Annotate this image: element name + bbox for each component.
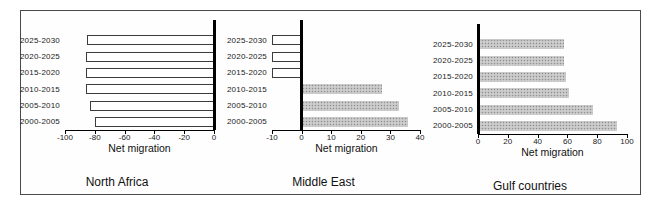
category-label: 2010-2015 [227,81,272,97]
x-axis-tick-label: 40 [416,133,425,142]
category-label: 2010-2015 [433,85,478,101]
category-axis-labels: 2025-20302020-20252015-20202010-20152005… [227,32,272,130]
chart-title: Middle East [227,175,420,189]
category-label: 2010-2015 [20,81,65,97]
bar [478,88,569,98]
x-axis-tick-label: -80 [89,133,101,142]
x-axis-tick-label: 10 [327,133,336,142]
chart-title: North Africa [20,175,214,189]
category-label: 2025-2030 [20,32,65,48]
x-axis-tick-label: 40 [533,137,542,146]
x-axis-tick-label: 100 [620,137,633,146]
plot-area: -100-80-60-40-200 [65,32,214,131]
bar [478,105,593,115]
x-axis-tick-label: -20 [178,133,190,142]
category-label: 2000-2005 [433,118,478,134]
zero-axis-line [477,24,480,134]
category-label: 2005-2010 [20,97,65,113]
category-label: 2015-2020 [20,65,65,81]
chart-gulf-countries: 2025-20302020-20252015-20202010-20152005… [433,0,627,207]
category-label: 2000-2005 [227,114,272,130]
bar [272,68,302,78]
bar [90,101,214,111]
category-label: 2005-2010 [433,101,478,117]
bar [86,84,214,94]
x-axis-tick-label: -100 [57,133,73,142]
category-label: 2015-2020 [227,65,272,81]
category-axis-labels: 2025-20302020-20252015-20202010-20152005… [20,32,65,130]
bar [95,117,214,127]
category-label: 2020-2025 [433,52,478,68]
bar [302,117,409,127]
category-label: 2000-2005 [20,114,65,130]
x-axis-tick-label: 20 [356,133,365,142]
x-axis-tick-label: 0 [212,133,216,142]
x-axis-tick-label: -60 [119,133,131,142]
bar [272,35,302,45]
x-axis-tick-label: 0 [299,133,303,142]
category-label: 2025-2030 [227,32,272,48]
category-axis-labels: 2025-20302020-20252015-20202010-20152005… [433,36,478,134]
category-label: 2025-2030 [433,36,478,52]
category-label: 2005-2010 [227,97,272,113]
category-label: 2020-2025 [20,48,65,64]
zero-axis-line [213,20,216,130]
x-axis-title: Net migration [65,142,214,154]
bar [86,68,214,78]
bar [302,101,400,111]
bar [272,52,302,62]
zero-axis-line [300,20,303,130]
x-axis-tick-label: -10 [266,133,278,142]
x-axis-tick-label: 20 [503,137,512,146]
chart-north-africa: 2025-20302020-20252015-20202010-20152005… [20,0,214,207]
bar [87,35,214,45]
bar [478,39,564,49]
bar [86,52,214,62]
x-axis-tick-label: -40 [149,133,161,142]
bar [478,121,617,131]
chart-title: Gulf countries [433,179,627,193]
x-axis-tick-label: 80 [593,137,602,146]
bar [478,72,566,82]
x-axis-tick-label: 0 [476,137,480,146]
bar [478,56,564,66]
chart-middle-east: 2025-20302020-20252015-20202010-20152005… [227,0,420,207]
category-label: 2020-2025 [227,48,272,64]
plot-area: 020406080100 [478,36,627,135]
x-axis-title: Net migration [478,146,627,158]
x-axis-tick-label: 30 [386,133,395,142]
bar [302,84,382,94]
plot-area: -10010203040 [272,32,420,131]
x-axis-title: Net migration [272,142,421,154]
figure-net-migration: 2025-20302020-20252015-20202010-20152005… [0,0,655,207]
x-axis-tick-label: 60 [563,137,572,146]
category-label: 2015-2020 [433,69,478,85]
